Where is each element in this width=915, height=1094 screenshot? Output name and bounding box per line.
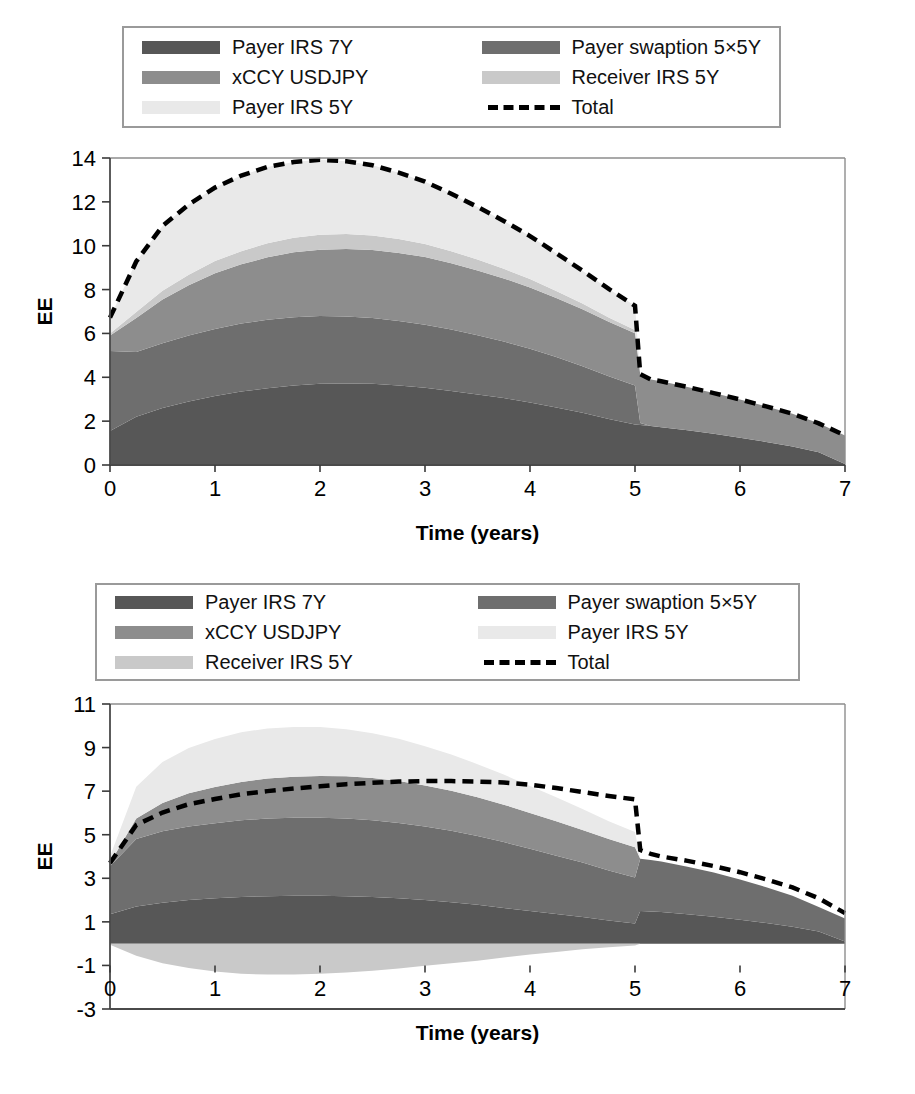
legend-swatch-payer-irs-5y bbox=[142, 101, 220, 114]
x-tick-label: 6 bbox=[734, 476, 746, 501]
legend-bottom-grid: Payer IRS 7YPayer swaption 5×5YxCCY USDJ… bbox=[97, 585, 798, 679]
x-tick-label: 3 bbox=[419, 976, 431, 1001]
y-tick-label: -1 bbox=[76, 953, 96, 978]
legend-label: xCCY USDJPY bbox=[232, 67, 368, 87]
x-tick-label: 1 bbox=[209, 476, 221, 501]
legend-label: Receiver IRS 5Y bbox=[205, 652, 353, 672]
legend-swatch-payer-irs-7y bbox=[115, 596, 193, 609]
y-tick-label: 3 bbox=[84, 866, 96, 891]
legend-swatch-receiver-irs-5y bbox=[482, 71, 560, 84]
y-tick-label: 9 bbox=[84, 736, 96, 761]
legend-label: Payer IRS 7Y bbox=[205, 592, 326, 612]
legend-label: Payer IRS 7Y bbox=[232, 37, 353, 57]
legend-label: Payer swaption 5×5Y bbox=[568, 592, 758, 612]
legend-swatch-xccy-usdjpy bbox=[142, 71, 220, 84]
legend-swatch-payer-swaption-5x5y bbox=[482, 41, 560, 54]
legend-item-total: Total bbox=[448, 647, 799, 677]
y-tick-label: 4 bbox=[84, 365, 96, 390]
y-axis-title: EE bbox=[33, 842, 56, 870]
legend-item-payer-irs-7y: Payer IRS 7Y bbox=[124, 32, 452, 62]
legend-item-payer-swaption-5-5y: Payer swaption 5×5Y bbox=[448, 587, 799, 617]
legend-item-xccy-usdjpy: xCCY USDJPY bbox=[124, 62, 452, 92]
y-tick-label: 12 bbox=[72, 190, 96, 215]
legend-item-payer-irs-5y: Payer IRS 5Y bbox=[448, 617, 799, 647]
y-tick-label: 14 bbox=[72, 150, 96, 171]
y-tick-label: 0 bbox=[84, 453, 96, 478]
x-tick-label: 4 bbox=[524, 476, 536, 501]
x-tick-label: 0 bbox=[104, 976, 116, 1001]
legend-label: Payer IRS 5Y bbox=[568, 622, 689, 642]
x-tick-label: 5 bbox=[629, 476, 641, 501]
chart-bottom-canvas: 01234567-3-11357911Time (years)EE bbox=[0, 690, 915, 1094]
x-tick-label: 6 bbox=[734, 976, 746, 1001]
y-tick-label: 6 bbox=[84, 321, 96, 346]
y-tick-label: -3 bbox=[76, 997, 96, 1022]
legend-item-receiver-irs-5y: Receiver IRS 5Y bbox=[97, 647, 448, 677]
legend-bottom: Payer IRS 7YPayer swaption 5×5YxCCY USDJ… bbox=[95, 583, 800, 681]
chart-top: 0123456702468101214Time (years)EE bbox=[0, 150, 915, 550]
x-tick-label: 7 bbox=[839, 476, 851, 501]
chart-bottom: 01234567-3-11357911Time (years)EE bbox=[0, 690, 915, 1094]
legend-item-receiver-irs-5y: Receiver IRS 5Y bbox=[452, 62, 780, 92]
legend-swatch-receiver-irs-5y bbox=[115, 656, 193, 669]
legend-swatch-payer-irs-5y bbox=[478, 626, 556, 639]
legend-item-total: Total bbox=[452, 92, 780, 122]
legend-dashed-line-icon bbox=[484, 660, 556, 665]
y-tick-label: 1 bbox=[84, 910, 96, 935]
y-tick-label: 7 bbox=[84, 779, 96, 804]
chart-top-canvas: 0123456702468101214Time (years)EE bbox=[0, 150, 915, 550]
y-tick-label: 2 bbox=[84, 409, 96, 434]
legend-top: Payer IRS 7YPayer swaption 5×5YxCCY USDJ… bbox=[122, 26, 781, 128]
legend-item-xccy-usdjpy: xCCY USDJPY bbox=[97, 617, 448, 647]
legend-dashed-line-icon bbox=[488, 105, 560, 110]
y-axis-title: EE bbox=[33, 297, 56, 325]
legend-swatch-xccy-usdjpy bbox=[115, 626, 193, 639]
legend-label: Total bbox=[572, 97, 614, 117]
legend-label: xCCY USDJPY bbox=[205, 622, 341, 642]
legend-item-payer-irs-7y: Payer IRS 7Y bbox=[97, 587, 448, 617]
legend-top-grid: Payer IRS 7YPayer swaption 5×5YxCCY USDJ… bbox=[124, 28, 779, 126]
x-tick-label: 7 bbox=[839, 976, 851, 1001]
x-axis-title: Time (years) bbox=[416, 521, 539, 544]
figure-root: Payer IRS 7YPayer swaption 5×5YxCCY USDJ… bbox=[0, 0, 915, 1094]
x-tick-label: 5 bbox=[629, 976, 641, 1001]
x-tick-label: 3 bbox=[419, 476, 431, 501]
y-tick-label: 10 bbox=[72, 234, 96, 259]
x-tick-label: 2 bbox=[314, 476, 326, 501]
x-axis-title: Time (years) bbox=[416, 1021, 539, 1044]
y-tick-label: 8 bbox=[84, 278, 96, 303]
legend-swatch-payer-swaption-5x5y bbox=[478, 596, 556, 609]
legend-label: Payer swaption 5×5Y bbox=[572, 37, 762, 57]
y-tick-label: 11 bbox=[73, 692, 96, 717]
x-tick-label: 4 bbox=[524, 976, 536, 1001]
y-tick-label: 5 bbox=[84, 823, 96, 848]
legend-item-payer-irs-5y: Payer IRS 5Y bbox=[124, 92, 452, 122]
legend-label: Payer IRS 5Y bbox=[232, 97, 353, 117]
legend-label: Receiver IRS 5Y bbox=[572, 67, 720, 87]
legend-label: Total bbox=[568, 652, 610, 672]
x-tick-label: 2 bbox=[314, 976, 326, 1001]
legend-swatch-payer-irs-7y bbox=[142, 41, 220, 54]
x-tick-label: 1 bbox=[209, 976, 221, 1001]
x-tick-label: 0 bbox=[104, 476, 116, 501]
legend-item-payer-swaption-5-5y: Payer swaption 5×5Y bbox=[452, 32, 780, 62]
